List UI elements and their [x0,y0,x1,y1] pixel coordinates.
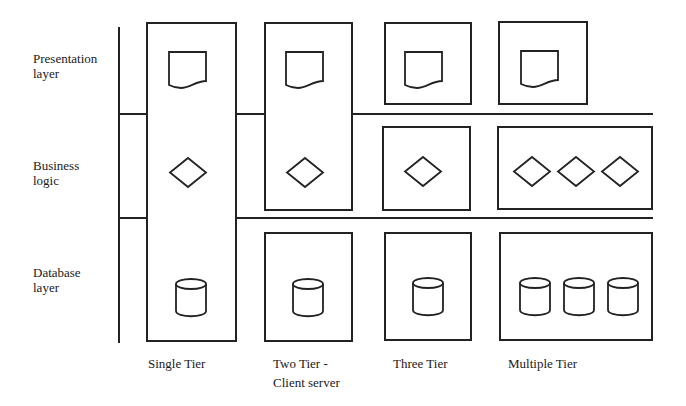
column-label-two-tier-line2: Client server [273,373,340,392]
row-label-presentation-line2: layer [33,66,97,81]
column-label-two-tier: Two Tier - Client server [273,354,340,392]
row-label-business-line2: logic [33,173,79,188]
row-label-presentation-line1: Presentation [33,51,97,66]
cylinder-icon [412,277,446,319]
column-label-multiple-tier: Multiple Tier [508,354,577,373]
diamond-icon [403,156,443,188]
diamond-icon [512,156,552,188]
document-icon [520,50,560,92]
document-icon [285,51,325,93]
column-label-single-tier-line1: Single Tier [148,354,205,373]
cylinder-icon [607,277,641,319]
column-label-two-tier-line1: Two Tier - [273,354,340,373]
row-label-database: Database layer [33,265,81,295]
cylinder-icon [563,277,597,319]
diamond-icon [285,157,325,189]
column-label-three-tier: Three Tier [393,354,448,373]
diamond-icon [600,156,640,188]
document-icon [168,51,208,93]
row-label-presentation: Presentation layer [33,51,97,81]
cylinder-icon [175,278,209,320]
row-label-business-line1: Business [33,158,79,173]
document-icon [404,51,444,93]
vertical-axis-line [118,27,120,343]
row-label-database-line2: layer [33,280,81,295]
column-label-single-tier: Single Tier [148,354,205,373]
diamond-icon [168,157,208,189]
cylinder-icon [292,278,326,320]
column-label-multiple-tier-line1: Multiple Tier [508,354,577,373]
cylinder-icon [519,277,553,319]
row-label-business: Business logic [33,158,79,188]
column-label-three-tier-line1: Three Tier [393,354,448,373]
diamond-icon [556,156,596,188]
row-label-database-line1: Database [33,265,81,280]
